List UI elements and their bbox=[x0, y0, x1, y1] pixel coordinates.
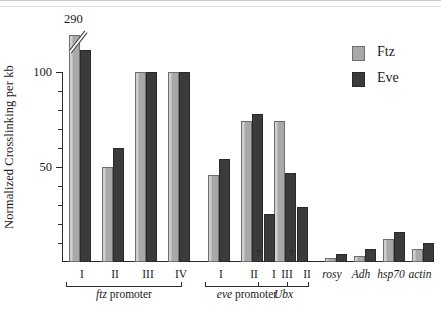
bar-ftz-promoter-IV-Ftz bbox=[168, 72, 179, 262]
bar-eve-promoter-II-Ftz bbox=[241, 121, 252, 262]
bracket-label-ubx-italic: Ubx bbox=[274, 288, 293, 300]
legend-label-eve: Eve bbox=[377, 70, 399, 86]
bar-eve-promoter-II-Eve bbox=[252, 114, 263, 262]
y-tick-label-50: 50 bbox=[18, 160, 52, 175]
bracket-label-ftz-italic: ftz bbox=[96, 288, 107, 300]
bar-hsp70-Ftz bbox=[383, 239, 394, 262]
bar-actin-Ftz bbox=[412, 249, 423, 262]
bar-rosy-Eve bbox=[336, 254, 347, 262]
y-axis-line bbox=[62, 72, 63, 262]
legend-label-ftz: Ftz bbox=[377, 44, 395, 60]
scan-edge-top-secondary bbox=[0, 6, 441, 7]
bar-ftz-promoter-II-Eve bbox=[113, 148, 124, 262]
y-tick-minor-70 bbox=[58, 129, 62, 130]
bar-actin-Eve bbox=[423, 243, 434, 262]
bracket-label-ubx: Ubx bbox=[258, 288, 309, 300]
y-axis-title: Normalized Crosslinking per kb bbox=[2, 52, 18, 242]
y-tick-100 bbox=[56, 72, 62, 73]
bar-value-290: 290 bbox=[64, 12, 83, 27]
bar-ftz-promoter-III-Eve bbox=[146, 72, 157, 262]
bar-eve-promoter-III-Ftz bbox=[274, 121, 285, 262]
y-tick-minor-30 bbox=[58, 205, 62, 206]
bar-ftz-promoter-I-Eve bbox=[80, 50, 91, 262]
nd-label-ubx-I: n.d. bbox=[255, 249, 261, 256]
y-tick-50 bbox=[56, 167, 62, 168]
bracket-ubx bbox=[258, 282, 309, 287]
bracket-ftz-promoter bbox=[66, 282, 182, 287]
chart-figure: Normalized Crosslinking per kb 100 50 29… bbox=[0, 0, 441, 309]
bar-hsp70-Eve bbox=[394, 232, 405, 262]
x-tick-label-ftz-IV: IV bbox=[161, 268, 201, 280]
y-tick-minor-20 bbox=[58, 224, 62, 225]
bar-Adh-Ftz bbox=[354, 256, 365, 262]
bar-ftz-promoter-III-Ftz bbox=[135, 72, 146, 262]
scan-edge-top bbox=[0, 0, 441, 1]
y-tick-minor-90 bbox=[58, 91, 62, 92]
bar-Ubx-I-Eve bbox=[264, 214, 275, 262]
bar-rosy-Ftz bbox=[325, 258, 336, 262]
bracket-label-eve-italic: eve bbox=[217, 288, 232, 300]
legend-swatch-ftz-icon bbox=[352, 46, 365, 61]
x-tick-label-actin: actin bbox=[398, 268, 441, 280]
bar-eve-promoter-I-Ftz bbox=[208, 175, 219, 262]
y-tick-minor-80 bbox=[58, 110, 62, 111]
legend-swatch-eve-icon bbox=[352, 72, 365, 87]
bar-ftz-promoter-II-Ftz bbox=[102, 167, 113, 262]
bracket-label-ftz-rest: promoter bbox=[110, 288, 152, 300]
y-tick-minor-10 bbox=[58, 243, 62, 244]
nd-label-ubx-II: n.d. bbox=[288, 249, 294, 256]
y-tick-minor-40 bbox=[58, 186, 62, 187]
bar-ftz-promoter-IV-Eve bbox=[179, 72, 190, 262]
y-tick-minor-60 bbox=[58, 148, 62, 149]
bracket-label-ftz-promoter: ftz promoter bbox=[66, 288, 182, 300]
bar-Ubx-II-Eve bbox=[297, 207, 308, 262]
bar-Adh-Eve bbox=[365, 249, 376, 262]
bar-ftz-promoter-I-Ftz bbox=[69, 35, 80, 262]
bar-eve-promoter-I-Eve bbox=[219, 159, 230, 262]
y-tick-label-100: 100 bbox=[18, 65, 52, 80]
